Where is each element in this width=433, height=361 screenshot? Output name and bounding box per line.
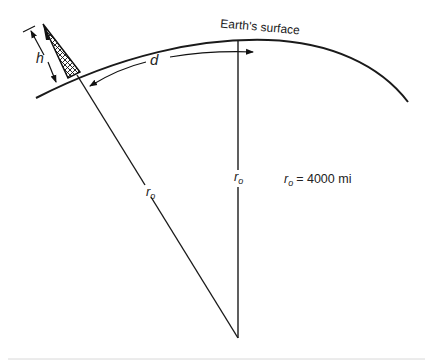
height-tick [23, 26, 35, 32]
radius-line-slanted-top [77, 75, 145, 185]
height-dimension-arrow-down [48, 62, 56, 82]
tower-icon [43, 24, 80, 78]
radius-line-slanted-bottom [151, 197, 238, 338]
earth-surface-arc [36, 40, 408, 102]
distance-arrow-right [170, 52, 253, 57]
distance-label: d [150, 51, 159, 68]
surface-label: Earth's surface [220, 16, 301, 37]
earth-curvature-diagram: h d Earth's surface ro ro ro= 4000 mi [0, 0, 433, 361]
height-label: h [36, 50, 44, 66]
radius-label-slanted: ro [146, 184, 155, 201]
distance-arrow-left [90, 62, 146, 86]
radius-label-vertical: ro [234, 169, 243, 186]
radius-value-legend: ro= 4000 mi [284, 172, 351, 188]
